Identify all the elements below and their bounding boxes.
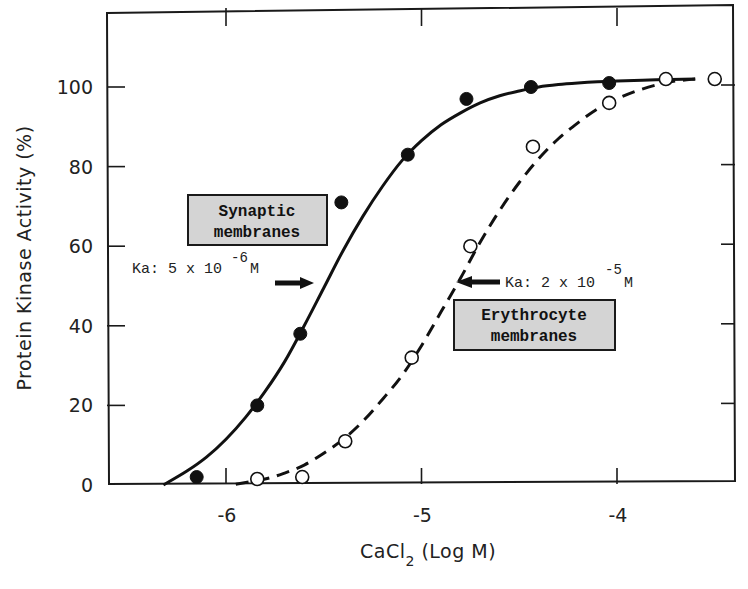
erythrocyte-data-point: [296, 471, 309, 484]
synaptic-data-point: [294, 327, 307, 340]
erythrocyte-data-point: [251, 473, 264, 486]
synaptic-data-point: [190, 471, 203, 484]
synaptic-data-point: [603, 77, 616, 90]
arrow-right-icon: [275, 277, 314, 289]
erythrocyte-data-point: [464, 240, 477, 253]
synaptic-data-point: [401, 148, 414, 161]
erythrocyte-data-point: [405, 351, 418, 364]
y-tick-label: 40: [69, 315, 93, 337]
x-axis-title: CaCl2 (Log M): [360, 540, 496, 569]
synaptic-ka-text: Ka: 5 x 10: [132, 261, 222, 278]
y-tick-label: 60: [69, 235, 93, 257]
erythrocyte-label-line2: membranes: [491, 328, 577, 346]
synaptic-label-line2: membranes: [214, 224, 300, 242]
erythrocyte-data-point: [526, 140, 539, 153]
y-tick-label: 0: [81, 474, 93, 496]
synaptic-fit-curve: [163, 79, 695, 485]
synaptic-ka-unit: M: [250, 261, 259, 278]
x-tick-label: -6: [218, 504, 237, 526]
data-points: [190, 73, 721, 486]
erythrocyte-ka-annotation: Ka: 2 x 10 -5 M: [456, 262, 633, 292]
erythrocyte-label-line1: Erythrocyte: [481, 307, 587, 325]
synaptic-label-line1: Synaptic: [219, 203, 296, 221]
synaptic-membranes-label-box: Synaptic membranes: [188, 195, 327, 245]
synaptic-ka-exponent: -6: [231, 250, 248, 266]
arrow-left-icon: [456, 276, 500, 288]
y-axis-title: Protein Kinase Activity (%): [13, 125, 35, 390]
y-tick-label: 80: [69, 156, 93, 178]
y-tick-label: 100: [57, 76, 93, 98]
synaptic-data-point: [524, 81, 537, 94]
synaptic-ka-annotation: Ka: 5 x 10 -6 M: [132, 250, 314, 289]
x-tick-label: -4: [609, 504, 628, 526]
synaptic-data-point: [460, 92, 473, 105]
synaptic-data-point: [251, 399, 264, 412]
erythrocyte-ka-exponent: -5: [605, 262, 622, 278]
erythrocyte-data-point: [603, 96, 616, 109]
erythrocyte-ka-text: Ka: 2 x 10: [505, 275, 595, 292]
erythrocyte-ka-unit: M: [624, 275, 633, 292]
y-tick-label: 20: [69, 394, 93, 416]
erythrocyte-data-point: [708, 73, 721, 86]
kinase-activity-chart: -6-5-4 020406080100 Synaptic membranes K…: [0, 0, 748, 589]
x-axis-ticks: -6-5-4: [218, 8, 628, 526]
erythrocyte-membranes-label-box: Erythrocyte membranes: [454, 300, 615, 350]
fit-curves: [163, 79, 695, 485]
erythrocyte-data-point: [339, 435, 352, 448]
erythrocyte-data-point: [659, 73, 672, 86]
y-axis-ticks: 020406080100: [57, 76, 735, 496]
x-tick-label: -5: [413, 504, 432, 526]
synaptic-data-point: [335, 196, 348, 209]
